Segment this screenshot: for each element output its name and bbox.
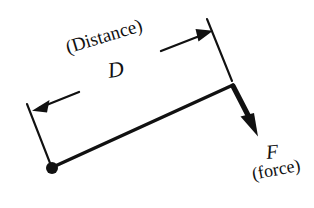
pivot-point <box>46 162 58 174</box>
distance-symbol-label: D <box>106 58 125 82</box>
dimension-arrow-left <box>32 92 79 113</box>
extension-line-left <box>27 104 50 163</box>
lever-beam <box>53 85 233 167</box>
force-arrow <box>233 86 258 137</box>
torque-diagram: (Distance) D F (force) <box>0 0 314 208</box>
extension-line-right <box>207 19 232 81</box>
dimension-arrow-right <box>161 29 213 51</box>
